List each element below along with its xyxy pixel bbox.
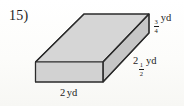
dimension-label-width: 2yd	[60, 88, 77, 99]
unit-label-width: yd	[67, 87, 78, 98]
fraction-one-half: 1 2	[139, 62, 144, 77]
unit-label-depth: yd	[146, 55, 157, 66]
fraction-numerator: 3	[154, 19, 159, 27]
dimension-label-height: 3 4 yd	[153, 13, 171, 34]
fraction-denominator: 4	[154, 27, 159, 34]
fraction-three-quarters: 3 4	[154, 19, 159, 34]
dimension-label-depth: 2 1 2 yd	[133, 56, 157, 77]
unit-label-height: yd	[161, 12, 172, 23]
mixed-number-whole-part: 2	[133, 55, 138, 66]
worksheet-problem-figure: 15) 3 4 yd 2 1 2 yd 2yd	[0, 0, 184, 106]
width-value: 2	[60, 87, 65, 98]
prism-front-face	[36, 62, 104, 82]
fraction-numerator: 1	[139, 62, 144, 70]
fraction-denominator: 2	[139, 70, 144, 77]
